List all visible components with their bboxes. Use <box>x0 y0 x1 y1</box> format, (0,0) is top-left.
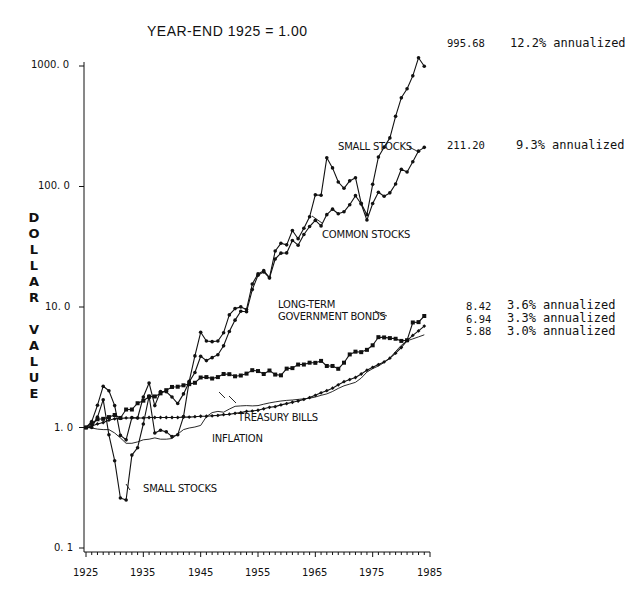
data-point <box>147 416 151 420</box>
data-point <box>382 335 386 339</box>
data-point <box>319 193 323 197</box>
end-value-small-stocks: 995.68 <box>447 37 485 49</box>
data-point <box>394 115 398 119</box>
data-point <box>193 415 197 419</box>
data-point <box>388 191 392 195</box>
data-point <box>422 64 426 68</box>
data-point <box>245 310 249 314</box>
data-point <box>279 251 283 255</box>
data-point <box>348 203 352 207</box>
y-axis-label-letter: A <box>27 338 41 354</box>
data-point <box>371 183 375 187</box>
data-point <box>182 392 186 396</box>
data-point <box>371 202 375 206</box>
data-point <box>187 415 191 419</box>
data-point <box>136 416 140 420</box>
data-point <box>273 405 277 409</box>
data-point <box>400 168 404 172</box>
data-point <box>319 391 323 395</box>
data-point <box>285 402 289 406</box>
data-point <box>319 224 323 228</box>
data-point <box>101 398 105 402</box>
data-point <box>325 364 329 368</box>
data-point <box>239 309 243 313</box>
data-point <box>142 395 146 399</box>
data-point <box>388 136 392 140</box>
data-point <box>377 190 381 194</box>
data-point <box>227 372 231 376</box>
data-point <box>359 202 363 206</box>
data-point <box>193 371 197 375</box>
data-point <box>256 273 260 277</box>
y-tick-label: 100. 0 <box>38 180 70 191</box>
data-point <box>204 375 208 379</box>
data-point <box>422 146 426 150</box>
y-axis-label-letter: V <box>27 322 41 338</box>
y-axis-label-letter: R <box>27 290 41 306</box>
data-point <box>279 403 283 407</box>
y-axis-label-letter: L <box>27 258 41 274</box>
data-point <box>296 237 300 241</box>
data-point <box>308 361 312 365</box>
data-point <box>210 377 214 381</box>
end-value-common-stocks: 211.20 <box>447 139 485 151</box>
data-point <box>164 416 168 420</box>
data-point <box>147 381 151 385</box>
label-small-stocks-lower: SMALL STOCKS <box>143 483 217 494</box>
data-point <box>342 186 346 190</box>
data-point <box>228 313 232 317</box>
data-point <box>331 207 335 211</box>
data-point <box>268 405 272 409</box>
end-value-treasury-bills: 6.94 <box>466 313 491 325</box>
data-point <box>164 430 168 434</box>
data-point <box>399 339 403 343</box>
y-axis-label: DOLLAR VALUE <box>27 210 41 402</box>
data-point <box>285 243 289 247</box>
data-point <box>239 374 243 378</box>
end-value-inflation: 5.88 <box>466 325 491 337</box>
data-point <box>250 368 254 372</box>
data-point <box>216 414 220 418</box>
data-point <box>153 394 157 398</box>
series-common-stocks <box>84 146 426 442</box>
data-point <box>336 367 340 371</box>
data-point <box>216 339 220 343</box>
data-point <box>353 350 357 354</box>
y-axis-label-letter: L <box>27 242 41 258</box>
data-point <box>113 459 117 463</box>
data-point <box>222 372 226 376</box>
data-point <box>308 215 312 219</box>
data-point <box>96 422 100 426</box>
data-point <box>107 389 111 393</box>
data-point <box>365 218 369 222</box>
data-point <box>119 496 123 500</box>
data-point <box>314 193 318 197</box>
data-point <box>124 408 128 412</box>
data-point <box>290 366 294 370</box>
data-point <box>210 414 214 418</box>
data-point <box>331 364 335 368</box>
data-point <box>417 56 421 60</box>
data-point <box>405 170 409 174</box>
data-point <box>222 331 226 335</box>
data-point <box>348 352 352 356</box>
y-axis-label-letter <box>27 306 41 322</box>
x-tick-label: 1965 <box>302 567 327 578</box>
x-tick-label: 1925 <box>73 567 98 578</box>
data-point <box>342 210 346 214</box>
y-axis-label-letter: E <box>27 386 41 402</box>
data-point <box>273 373 277 377</box>
data-point <box>176 416 180 420</box>
data-point <box>331 166 335 170</box>
data-point <box>227 412 231 416</box>
axes <box>79 62 430 557</box>
x-tick-label: 1935 <box>130 567 155 578</box>
data-point <box>181 383 185 387</box>
data-point <box>267 369 271 373</box>
data-point <box>422 314 426 318</box>
data-point <box>325 389 329 393</box>
data-point <box>377 155 381 159</box>
data-point <box>239 305 243 309</box>
data-point <box>233 374 237 378</box>
data-point <box>273 249 277 253</box>
